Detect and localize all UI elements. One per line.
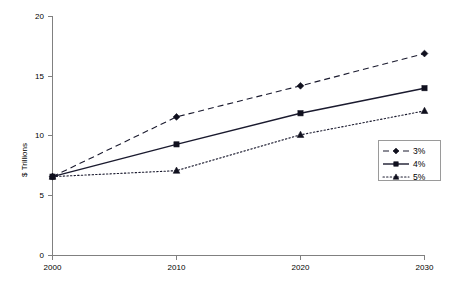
legend-box bbox=[379, 141, 441, 181]
legend-label: 4% bbox=[413, 159, 426, 169]
x-tick-label-2000: 2000 bbox=[44, 263, 62, 272]
series-layer bbox=[49, 50, 428, 180]
x-tick-label-2020: 2020 bbox=[292, 263, 310, 272]
data-point bbox=[297, 82, 304, 89]
x-axis-ticks bbox=[53, 256, 425, 261]
series-3pct bbox=[49, 50, 428, 180]
data-point bbox=[298, 111, 303, 116]
y-tick-label-0: 0 bbox=[40, 251, 45, 260]
series-line-3pct bbox=[53, 54, 425, 177]
data-point bbox=[421, 107, 428, 113]
y-tick-label-15: 15 bbox=[35, 72, 44, 81]
data-point bbox=[422, 86, 427, 91]
data-point bbox=[174, 142, 179, 147]
chart-svg: 20 15 10 5 0 $ Trillions 2000 2010 2020 … bbox=[0, 0, 455, 293]
y-axis-ticks bbox=[48, 17, 53, 256]
x-tick-label-2030: 2030 bbox=[416, 263, 434, 272]
y-tick-label-20: 20 bbox=[35, 12, 44, 21]
y-tick-label-5: 5 bbox=[40, 191, 45, 200]
data-point bbox=[173, 113, 180, 120]
y-axis-title: $ Trillions bbox=[20, 143, 29, 177]
data-point bbox=[421, 50, 428, 57]
legend-swatch-marker bbox=[394, 162, 398, 166]
line-chart: 20 15 10 5 0 $ Trillions 2000 2010 2020 … bbox=[0, 0, 455, 293]
series-line-5pct bbox=[53, 111, 425, 177]
y-tick-label-10: 10 bbox=[35, 131, 44, 140]
legend-label: 5% bbox=[413, 172, 426, 182]
legend: 3%4%5% bbox=[379, 141, 441, 183]
x-tick-label-2010: 2010 bbox=[168, 263, 186, 272]
legend-label: 3% bbox=[413, 146, 426, 156]
series-4pct bbox=[50, 86, 427, 180]
series-5pct bbox=[49, 107, 428, 179]
